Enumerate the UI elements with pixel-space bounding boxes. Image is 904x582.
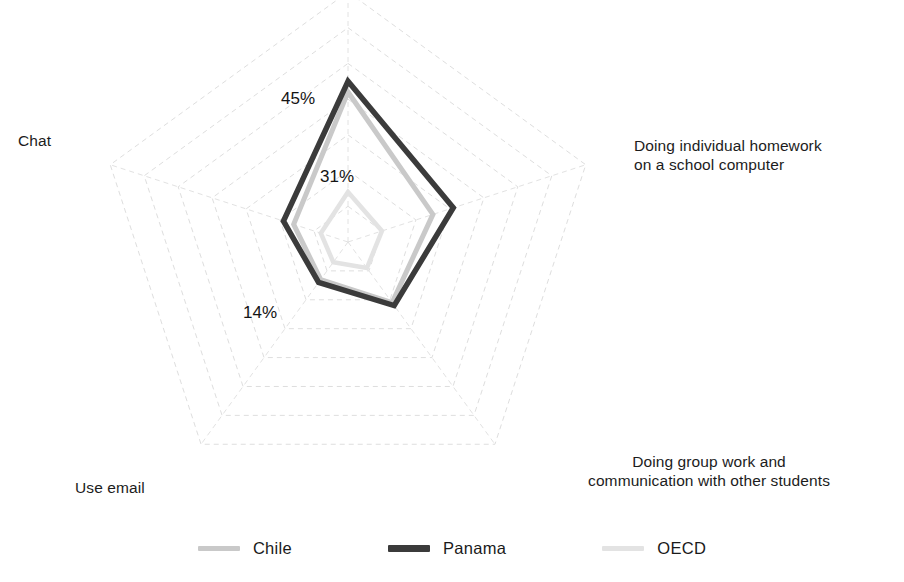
axis-label-chat: Chat <box>18 131 51 150</box>
legend-label-panama: Panama <box>443 539 506 558</box>
legend-label-oecd: OECD <box>657 539 706 558</box>
axis-label-individual-homework: Doing individual homework on a school co… <box>634 136 822 174</box>
legend-item-panama[interactable]: Panama <box>388 539 506 558</box>
data-label-14-percent: 14% <box>243 303 277 323</box>
legend-label-chile: Chile <box>253 539 292 558</box>
chart-legend: Chile Panama OECD <box>0 533 904 563</box>
legend-item-chile[interactable]: Chile <box>198 539 292 558</box>
data-label-31-percent: 31% <box>320 167 354 187</box>
radar-chart: Doing individual homework on a school co… <box>0 0 904 582</box>
grid-spokes <box>110 0 586 444</box>
axis-spoke <box>348 242 495 444</box>
legend-item-oecd[interactable]: OECD <box>602 539 706 558</box>
legend-swatch-oecd <box>602 546 644 551</box>
axis-label-group-work: Doing group work and communication with … <box>588 452 830 490</box>
legend-swatch-panama <box>388 545 430 552</box>
legend-swatch-chile <box>198 546 240 551</box>
axis-spoke <box>201 242 348 444</box>
axis-label-use-email: Use email <box>75 478 145 497</box>
data-label-45-percent: 45% <box>281 89 315 109</box>
series-polygon-oecd <box>321 192 382 268</box>
